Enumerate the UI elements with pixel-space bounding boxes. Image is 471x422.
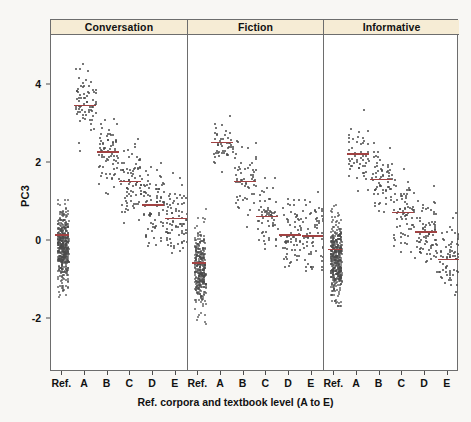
data-point (109, 148, 111, 150)
data-point (204, 300, 206, 302)
data-point (79, 68, 81, 70)
data-point (173, 247, 175, 249)
data-point (312, 241, 314, 243)
data-point (333, 294, 335, 296)
data-point (169, 232, 171, 234)
data-point (132, 185, 134, 187)
data-point (127, 188, 129, 190)
data-point (455, 212, 457, 214)
data-point (340, 219, 342, 221)
data-point (203, 235, 205, 237)
data-point (65, 216, 67, 218)
data-point (335, 221, 337, 223)
data-point (435, 213, 437, 215)
data-point (57, 228, 59, 230)
data-point (305, 204, 307, 206)
data-point (234, 157, 236, 159)
data-point (147, 174, 149, 176)
data-point (433, 211, 435, 213)
data-point (377, 151, 379, 153)
data-point (430, 247, 432, 249)
data-point (79, 120, 81, 122)
data-point (376, 165, 378, 167)
data-point (388, 172, 390, 174)
x-tick-mark (152, 371, 153, 375)
data-point (57, 278, 59, 280)
x-axis-title: Ref. corpora and textbook level (A to E) (0, 396, 471, 408)
data-point (379, 202, 381, 204)
data-point (75, 108, 77, 110)
data-point (172, 221, 174, 223)
data-point (251, 193, 253, 195)
data-point (154, 219, 156, 221)
data-point (197, 217, 199, 219)
panel-header-informative: Informative (324, 20, 459, 35)
data-point (249, 164, 251, 166)
data-point (92, 99, 94, 101)
data-point (181, 211, 183, 213)
data-point (298, 255, 300, 257)
data-point (282, 207, 284, 209)
data-point (293, 204, 295, 206)
data-point (297, 229, 299, 231)
data-point (61, 279, 63, 281)
data-point (316, 217, 318, 219)
data-point (65, 279, 67, 281)
data-point (333, 205, 335, 207)
data-point (450, 243, 452, 245)
data-point (455, 291, 457, 293)
data-point (376, 162, 378, 164)
data-point (294, 221, 296, 223)
data-point (244, 185, 246, 187)
data-point (453, 252, 455, 254)
data-point (259, 194, 261, 196)
x-axis: Ref. corpora and textbook level (A to E)… (0, 371, 471, 422)
x-tick-mark (356, 371, 357, 375)
data-point (394, 179, 396, 181)
data-point (181, 232, 183, 234)
data-point (295, 240, 297, 242)
data-point (275, 245, 277, 247)
data-point (98, 183, 100, 185)
data-point (394, 193, 396, 195)
data-point (378, 210, 380, 212)
data-point (223, 152, 225, 154)
data-point (166, 210, 168, 212)
data-point (178, 210, 180, 212)
data-point (442, 269, 444, 271)
data-point (277, 228, 279, 230)
data-point (199, 231, 201, 233)
data-point (82, 63, 84, 65)
data-point (60, 245, 62, 247)
x-tick-label-ref: Ref. (51, 377, 71, 389)
data-point (222, 138, 224, 140)
data-point (130, 172, 132, 174)
data-point (454, 294, 456, 296)
data-point (123, 150, 125, 152)
data-point (160, 196, 162, 198)
data-point (357, 136, 359, 138)
data-point (272, 187, 274, 189)
data-point (364, 165, 366, 167)
data-point (88, 85, 90, 87)
data-point (406, 214, 408, 216)
data-point (252, 174, 254, 176)
data-point (449, 226, 451, 228)
data-point (169, 198, 171, 200)
data-point (444, 282, 446, 284)
data-point (351, 147, 353, 149)
data-point (348, 141, 350, 143)
panel-informative: Informative (323, 20, 459, 370)
data-point (235, 153, 237, 155)
data-point (79, 94, 81, 96)
data-point (305, 217, 307, 219)
data-point (135, 203, 137, 205)
data-point (334, 216, 336, 218)
median-line (302, 235, 323, 237)
data-point (62, 243, 64, 245)
data-point (197, 278, 199, 280)
data-point (430, 209, 432, 211)
median-line (392, 212, 414, 214)
data-point (407, 235, 409, 237)
x-tick-mark (311, 371, 312, 375)
